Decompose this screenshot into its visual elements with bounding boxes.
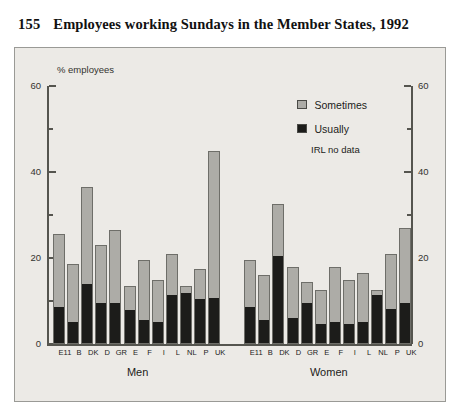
bar-segment-usually	[82, 284, 92, 343]
bar-segment-usually	[302, 303, 312, 343]
bar-men-uk[interactable]	[208, 151, 220, 345]
bar-men-e[interactable]	[124, 286, 136, 344]
bar-men-i[interactable]	[152, 280, 164, 345]
y-tick-label: 40	[418, 166, 440, 177]
x-tick-label: UK	[207, 348, 233, 357]
bar-segment-usually	[386, 309, 396, 343]
figure-title: Employees working Sundays in the Member …	[53, 16, 408, 33]
bar-women-f[interactable]	[329, 267, 341, 344]
bar-segment-usually	[273, 256, 283, 343]
bar-men-p[interactable]	[194, 269, 206, 344]
bar-women-d[interactable]	[287, 267, 299, 344]
bar-segment-usually	[245, 307, 255, 343]
bar-men-e11[interactable]	[53, 234, 65, 344]
bar-segment-usually	[96, 303, 106, 343]
bar-segment-usually	[344, 324, 354, 343]
bar-men-nl[interactable]	[180, 286, 192, 344]
bar-women-dk[interactable]	[272, 204, 284, 344]
y-tick-label: 20	[19, 252, 41, 263]
group-label-women: Women	[269, 366, 389, 378]
chart-frame: % employees 00202040406060 Sometimes Usu…	[14, 47, 446, 402]
x-axis-line	[47, 344, 412, 346]
bar-segment-usually	[259, 320, 269, 343]
y-tick-label: 20	[418, 252, 440, 263]
bar-men-dk[interactable]	[81, 187, 93, 344]
bar-segment-usually	[68, 322, 78, 343]
bar-segment-usually	[195, 299, 205, 343]
bar-segment-usually	[110, 303, 120, 343]
bar-segment-usually	[316, 324, 326, 343]
bar-men-d[interactable]	[95, 245, 107, 344]
bar-segment-usually	[54, 307, 64, 343]
bar-segment-usually	[153, 322, 163, 343]
x-axis-category-labels: E11BDKDGREFILNLPUKE11BDKDGREFILNLPUK	[47, 348, 412, 362]
bar-women-l[interactable]	[357, 273, 369, 344]
y-tick-label: 60	[19, 80, 41, 91]
bar-series-container	[47, 86, 412, 344]
bar-men-l[interactable]	[166, 254, 178, 344]
bar-women-e[interactable]	[315, 290, 327, 344]
page-title: 155 Employees working Sundays in the Mem…	[0, 16, 461, 42]
bar-segment-usually	[288, 318, 298, 343]
bar-segment-usually	[330, 322, 340, 343]
bar-men-f[interactable]	[138, 260, 150, 344]
bar-women-uk[interactable]	[399, 228, 411, 344]
bar-segment-usually	[125, 310, 135, 343]
group-label-men: Men	[78, 366, 198, 378]
bar-segment-usually	[358, 322, 368, 343]
bar-women-gr[interactable]	[301, 282, 313, 344]
bar-segment-usually	[139, 320, 149, 343]
chart-page: 155 Employees working Sundays in the Mem…	[0, 0, 461, 419]
bar-women-i[interactable]	[343, 280, 355, 345]
x-axis-group-labels: MenWomen	[47, 366, 412, 382]
y-axis-unit-label: % employees	[57, 64, 114, 75]
y-tick-label: 0	[19, 338, 41, 349]
bar-women-e11[interactable]	[244, 260, 256, 344]
bar-segment-usually	[209, 298, 219, 343]
bar-segment-usually	[181, 293, 191, 343]
x-tick-label: UK	[398, 348, 424, 357]
bar-men-b[interactable]	[67, 264, 79, 344]
bar-men-gr[interactable]	[109, 230, 121, 344]
figure-number: 155	[18, 16, 40, 33]
plot-area: % employees 00202040406060 Sometimes Usu…	[15, 48, 447, 403]
y-tick-label: 40	[19, 166, 41, 177]
y-tick-label: 60	[418, 80, 440, 91]
bar-women-p[interactable]	[385, 254, 397, 344]
bar-segment-usually	[167, 295, 177, 343]
bar-segment-usually	[400, 303, 410, 343]
bar-women-b[interactable]	[258, 275, 270, 344]
bar-women-nl[interactable]	[371, 290, 383, 344]
bar-segment-usually	[372, 295, 382, 343]
